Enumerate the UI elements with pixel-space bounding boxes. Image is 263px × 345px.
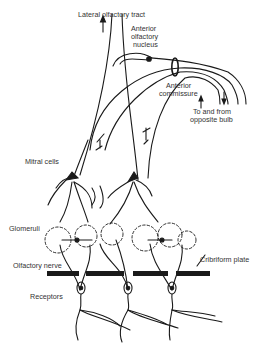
- glomeruli: [45, 223, 196, 253]
- label-receptors: Receptors: [30, 293, 63, 301]
- label-mitral-cells: Mitral cells: [25, 158, 59, 166]
- mitral-axon-left: [80, 14, 112, 175]
- receptors: [76, 282, 222, 342]
- anterior-nucleus-cell: [147, 57, 152, 62]
- cribriform-plate: [47, 271, 210, 276]
- label-anterior-commissure-2: commissure: [159, 90, 198, 98]
- label-anterior-nucleus-3: nucleus: [133, 41, 158, 49]
- mitral-cell-left: [66, 172, 78, 180]
- label-glomeruli: Glomeruli: [9, 225, 40, 233]
- label-opposite-bulb-2: opposite bulb: [190, 116, 233, 124]
- label-lateral-olfactory-tract: Lateral olfactory tract: [78, 11, 145, 19]
- label-cribriform-plate: Cribriform plate: [200, 256, 249, 264]
- label-olfactory-nerve: Olfactory nerve: [13, 262, 62, 270]
